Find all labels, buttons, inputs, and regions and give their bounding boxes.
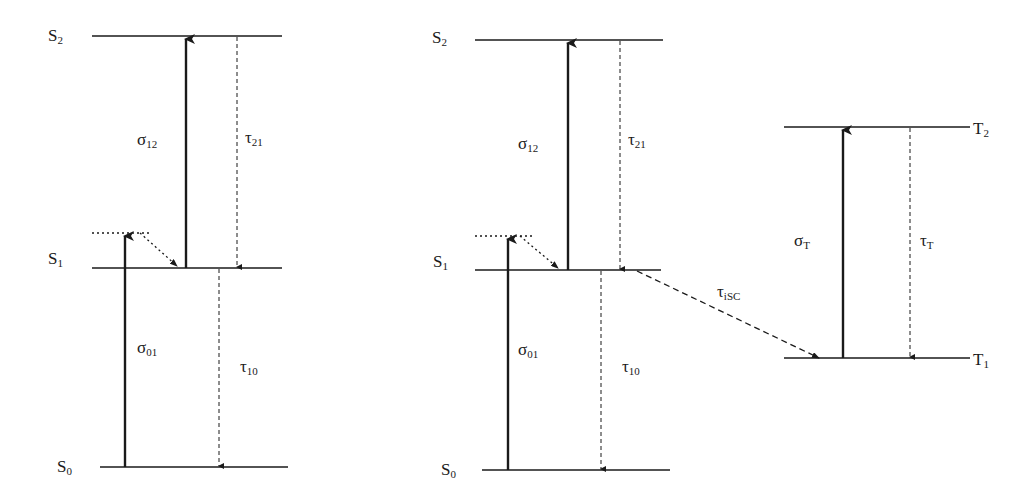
transition-symbol: τ xyxy=(240,357,247,376)
level-label-t2: T2 xyxy=(973,120,989,137)
transition-subscript: 21 xyxy=(635,138,646,150)
level-subscript: 1 xyxy=(983,358,989,370)
level-label-s0: S0 xyxy=(57,458,72,475)
transition-symbol: σ xyxy=(518,134,527,153)
level-label-s2: S2 xyxy=(432,29,447,46)
transition-label-tau-isc: τiSC xyxy=(717,283,740,300)
level-symbol: T xyxy=(973,350,983,369)
middle-panel xyxy=(475,40,819,470)
level-subscript: 2 xyxy=(441,36,447,48)
transition-subscript: T xyxy=(803,239,810,251)
jablonski-diagram xyxy=(0,0,1031,503)
transition-symbol: τ xyxy=(628,130,635,149)
transition-symbol: σ xyxy=(518,340,527,359)
transition-subscript: 01 xyxy=(527,348,538,360)
level-subscript: 0 xyxy=(450,468,456,480)
transition-label-tau21: τ21 xyxy=(628,131,646,148)
relaxation-dotted-arrow xyxy=(520,236,558,268)
level-subscript: 1 xyxy=(57,257,63,269)
transition-symbol: σ xyxy=(794,231,803,250)
transition-symbol: τ xyxy=(622,357,629,376)
transition-subscript: 10 xyxy=(629,365,640,377)
transition-label-tau-t: τT xyxy=(920,232,934,249)
transition-label-tau21: τ21 xyxy=(245,129,263,146)
level-label-t1: T1 xyxy=(973,351,989,368)
level-label-s1: S1 xyxy=(433,253,448,270)
transition-label-tau10: τ10 xyxy=(622,358,640,375)
transition-symbol: τ xyxy=(920,231,927,250)
transition-symbol: τ xyxy=(717,282,724,301)
transition-label-sigma-t: σT xyxy=(794,232,810,249)
transition-subscript: 12 xyxy=(527,142,538,154)
level-subscript: 2 xyxy=(983,127,989,139)
transition-subscript: 01 xyxy=(146,346,157,358)
transition-label-sigma12: σ12 xyxy=(518,135,538,152)
transition-subscript: 21 xyxy=(252,136,263,148)
level-symbol: T xyxy=(973,119,983,138)
transition-label-sigma01: σ01 xyxy=(137,339,157,356)
transition-subscript: 10 xyxy=(247,365,258,377)
transition-label-sigma12: σ12 xyxy=(137,131,157,148)
level-subscript: 1 xyxy=(442,260,448,272)
transition-subscript: iSC xyxy=(724,290,741,302)
transition-symbol: σ xyxy=(137,338,146,357)
relaxation-dotted-arrow xyxy=(140,233,177,266)
level-subscript: 2 xyxy=(57,34,63,46)
transition-symbol: τ xyxy=(245,128,252,147)
left-panel xyxy=(92,36,288,467)
transition-symbol: σ xyxy=(137,130,146,149)
level-label-s0: S0 xyxy=(441,461,456,478)
level-label-s2: S2 xyxy=(48,27,63,44)
level-subscript: 0 xyxy=(66,465,72,477)
transition-label-tau10: τ10 xyxy=(240,358,258,375)
transition-label-sigma01: σ01 xyxy=(518,341,538,358)
right-panel xyxy=(784,127,970,358)
level-label-s1: S1 xyxy=(48,250,63,267)
transition-subscript: 12 xyxy=(146,138,157,150)
transition-subscript: T xyxy=(927,239,934,251)
